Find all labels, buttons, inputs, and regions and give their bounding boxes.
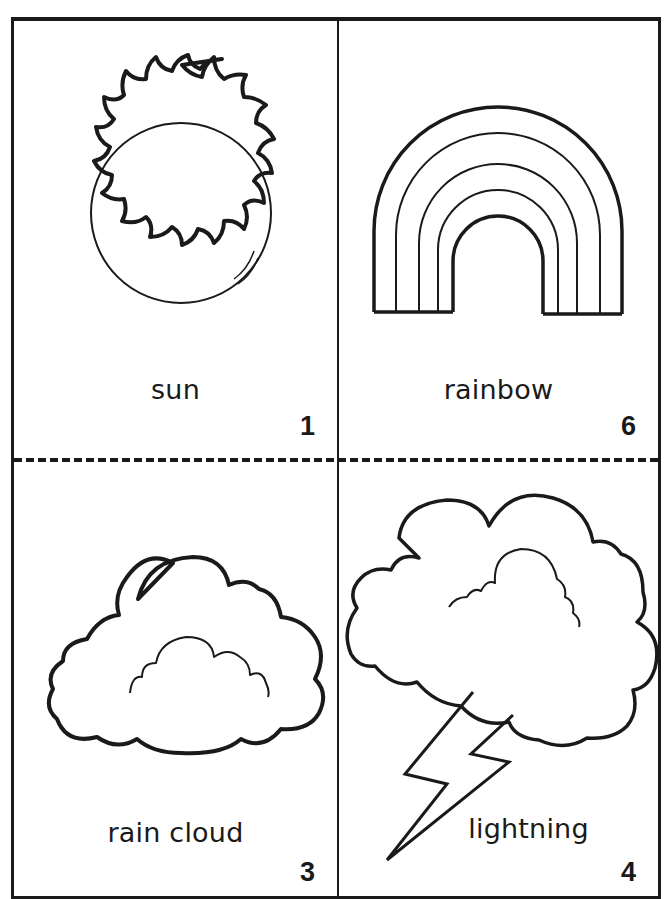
card-lightning: lightning 4 [339,462,658,896]
flashcard-sheet: sun 1 rainbow 6 rain cloud 3 [11,17,661,899]
card-rain-cloud: rain cloud 3 [14,462,337,896]
card-number: 3 [300,857,315,888]
card-sun: sun 1 [14,21,337,458]
card-label: rainbow [339,374,658,405]
card-rainbow: rainbow 6 [339,21,658,458]
card-label: lightning [369,813,666,844]
card-number: 4 [621,857,636,888]
card-number: 6 [621,411,636,442]
card-label: rain cloud [14,817,337,848]
card-label: sun [14,374,337,405]
card-number: 1 [300,411,315,442]
